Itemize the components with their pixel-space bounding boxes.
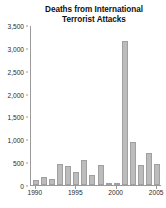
- y-axis-tick-mark: [26, 140, 29, 141]
- y-axis: 05001,0001,5002,0002,5003,0003,500: [0, 26, 28, 186]
- x-axis-tick-label: 2000: [108, 189, 123, 197]
- y-axis-tick-mark: [26, 71, 29, 72]
- y-axis-tick-label: 3,500: [7, 23, 24, 30]
- y-axis-tick-label: 2,000: [7, 91, 24, 98]
- bar: [138, 165, 144, 185]
- bar: [114, 183, 120, 185]
- y-axis-tick-label: 500: [13, 160, 24, 167]
- chart-title-line-2: Terrorist Attacks: [26, 15, 162, 25]
- y-axis-tick-mark: [26, 94, 29, 95]
- bar: [89, 175, 95, 186]
- x-axis-tick-label: 1995: [68, 189, 83, 197]
- bar: [122, 41, 128, 185]
- bar: [81, 160, 87, 185]
- plot-area: [30, 26, 161, 186]
- bar: [106, 183, 112, 185]
- y-axis-tick-label: 2,500: [7, 68, 24, 75]
- bar: [33, 180, 39, 185]
- y-axis-tick-label: 1,000: [7, 137, 24, 144]
- y-axis-tick-label: 1,500: [7, 114, 24, 121]
- bar: [73, 172, 79, 185]
- y-axis-tick-mark: [26, 163, 29, 164]
- y-axis-tick-mark: [26, 26, 29, 27]
- bar: [98, 165, 104, 185]
- bar: [146, 153, 152, 185]
- x-axis-tick-label: 1990: [28, 189, 43, 197]
- bar: [154, 164, 160, 185]
- bar: [65, 166, 71, 185]
- bar: [130, 142, 136, 185]
- bar: [41, 177, 47, 185]
- y-axis-tick-mark: [26, 48, 29, 49]
- y-axis-tick-mark: [26, 117, 29, 118]
- x-axis-tick-label: 2005: [149, 189, 164, 197]
- chart-title-line-1: Deaths from International: [26, 5, 162, 15]
- y-axis-tick-mark: [26, 186, 29, 187]
- chart-title: Deaths from International Terrorist Atta…: [26, 5, 162, 24]
- y-axis-tick-label: 3,000: [7, 45, 24, 52]
- bar: [49, 179, 55, 185]
- bar: [57, 164, 63, 185]
- bar-chart: Deaths from International Terrorist Atta…: [0, 0, 166, 208]
- bars-layer: [31, 26, 161, 185]
- x-axis: 1990199520002005: [0, 189, 166, 201]
